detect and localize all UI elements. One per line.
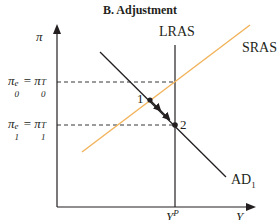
x-axis-arrow-icon bbox=[246, 203, 256, 211]
ad1-label-base: AD bbox=[231, 172, 251, 187]
sras-line bbox=[82, 25, 250, 152]
lower-rhs-sub: 1 bbox=[41, 133, 46, 142]
lower-rhs-sup: T bbox=[41, 121, 46, 130]
equilibrium-point-2 bbox=[172, 122, 178, 128]
y-axis-arrow-icon bbox=[53, 24, 61, 34]
upper-rhs-sup: T bbox=[41, 78, 46, 87]
upper-level-label: πe0 = πT0 bbox=[8, 74, 47, 87]
upper-lhs-sup: e bbox=[15, 79, 19, 88]
y-axis-label: π bbox=[36, 30, 43, 43]
diagram-title: B. Adjustment bbox=[0, 4, 280, 16]
adjustment-arrow-2 bbox=[160, 110, 169, 119]
lower-level-label: πe1 = πT1 bbox=[8, 117, 47, 130]
lower-lhs-sub: 1 bbox=[15, 133, 20, 142]
equilibrium-point-1 bbox=[147, 97, 152, 102]
upper-eq-sign: = bbox=[24, 73, 31, 88]
point-2-label: 2 bbox=[180, 118, 187, 131]
point-1-label: 1 bbox=[137, 92, 144, 105]
potential-output-tick-label: YP bbox=[166, 209, 179, 220]
ad1-label: AD1 bbox=[231, 173, 256, 190]
lower-lhs-sup: e bbox=[15, 122, 19, 131]
upper-rhs-sub: 0 bbox=[41, 90, 46, 99]
yp-sup: P bbox=[173, 208, 179, 218]
sras-label: SRAS bbox=[242, 41, 277, 55]
ad1-line bbox=[100, 52, 226, 177]
lras-label: LRAS bbox=[159, 25, 195, 39]
upper-lhs-sub: 0 bbox=[15, 90, 20, 99]
ad1-label-sub: 1 bbox=[251, 180, 256, 190]
x-axis-label: Y bbox=[236, 210, 243, 220]
x-axis-label-text: Y bbox=[236, 209, 243, 220]
lower-eq-sign: = bbox=[24, 116, 31, 131]
